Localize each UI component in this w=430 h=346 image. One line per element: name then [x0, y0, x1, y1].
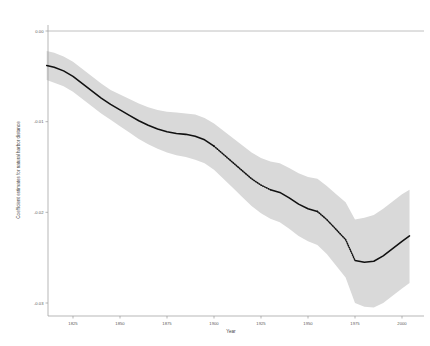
x-tick-label: 1850 [115, 321, 125, 326]
x-tick-label: 1825 [68, 321, 78, 326]
x-tick-label: 1975 [350, 321, 360, 326]
x-axis-title: Year [226, 329, 236, 334]
x-tick-label: 1950 [303, 321, 313, 326]
coefficient-estimates-line-chart: 0.00-0.01-0.02-0.03 18251850187519001925… [0, 0, 430, 346]
y-axis-title: Coefficient estimates for natural harbor… [16, 121, 21, 219]
x-tick-label: 2000 [397, 321, 407, 326]
y-tick-label: -0.03 [34, 301, 44, 306]
y-tick-label: 0.00 [35, 29, 44, 34]
x-tick-label: 1900 [209, 321, 219, 326]
y-tick-label: -0.01 [34, 119, 44, 124]
y-tick-label: -0.02 [34, 210, 44, 215]
x-tick-label: 1925 [256, 321, 266, 326]
chart-figure: 0.00-0.01-0.02-0.03 18251850187519001925… [0, 0, 430, 346]
x-tick-label: 1875 [162, 321, 172, 326]
